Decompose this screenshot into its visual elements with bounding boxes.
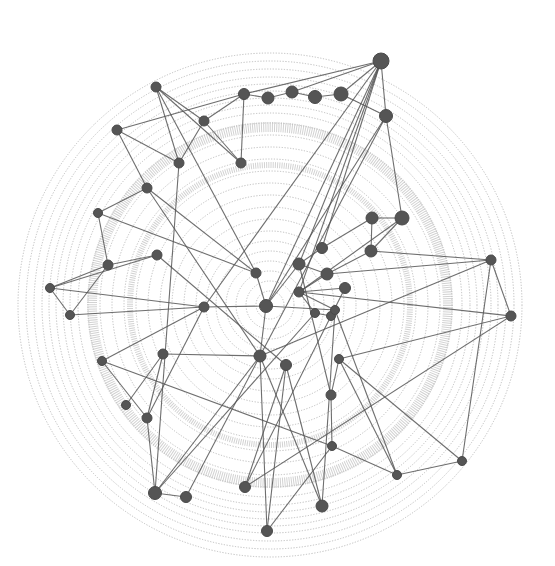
graph-node[interactable]	[286, 86, 298, 98]
graph-node[interactable]	[142, 183, 152, 193]
graph-node[interactable]	[334, 87, 348, 101]
edge	[117, 94, 244, 130]
graph-node[interactable]	[239, 89, 250, 100]
graph-node[interactable]	[373, 53, 389, 69]
graph-node[interactable]	[335, 355, 344, 364]
graph-node[interactable]	[311, 309, 320, 318]
edge	[339, 359, 397, 475]
edge	[204, 306, 266, 307]
graph-node[interactable]	[142, 413, 152, 423]
edge	[108, 255, 157, 265]
edge	[371, 251, 491, 260]
graph-node[interactable]	[331, 306, 340, 315]
graph-node[interactable]	[98, 357, 107, 366]
edge	[102, 307, 204, 361]
edge	[299, 292, 335, 310]
graph-node[interactable]	[380, 110, 393, 123]
graph-node[interactable]	[281, 360, 292, 371]
graph-node[interactable]	[326, 390, 336, 400]
graph-node[interactable]	[260, 300, 273, 313]
graph-node[interactable]	[46, 284, 55, 293]
graph-node[interactable]	[366, 212, 378, 224]
graph-node[interactable]	[395, 211, 409, 225]
edge	[267, 446, 332, 531]
graph-node[interactable]	[158, 349, 168, 359]
graph-node[interactable]	[316, 500, 328, 512]
edge	[155, 356, 260, 493]
graph-node[interactable]	[328, 442, 337, 451]
edge	[331, 395, 332, 446]
edge	[339, 316, 511, 359]
graph-node[interactable]	[151, 82, 161, 92]
edge	[50, 288, 204, 307]
graph-node[interactable]	[122, 401, 131, 410]
edge	[156, 87, 179, 163]
edge	[117, 130, 147, 188]
network-diagram	[0, 0, 555, 566]
graph-node[interactable]	[149, 487, 162, 500]
graph-node[interactable]	[321, 268, 333, 280]
graph-node[interactable]	[340, 283, 351, 294]
graph-node[interactable]	[506, 311, 516, 321]
graph-node[interactable]	[240, 482, 251, 493]
graph-node[interactable]	[112, 125, 122, 135]
edge	[147, 188, 260, 356]
graph-node[interactable]	[293, 258, 305, 270]
graph-node[interactable]	[317, 243, 328, 254]
graph-node[interactable]	[174, 158, 184, 168]
graph-node[interactable]	[486, 255, 496, 265]
graph-node[interactable]	[262, 92, 274, 104]
edge	[267, 365, 286, 531]
graph-node[interactable]	[94, 209, 103, 218]
edge	[204, 94, 244, 121]
edge	[292, 61, 381, 92]
edge	[462, 260, 491, 461]
edge	[50, 288, 70, 315]
graph-node[interactable]	[66, 311, 75, 320]
edge	[397, 461, 462, 475]
graph-node[interactable]	[365, 245, 377, 257]
edge	[163, 354, 260, 356]
edge	[299, 264, 331, 395]
graph-node[interactable]	[199, 116, 209, 126]
graph-node[interactable]	[262, 526, 273, 537]
graph-node[interactable]	[254, 350, 266, 362]
graph-node[interactable]	[181, 492, 192, 503]
graph-node[interactable]	[294, 287, 304, 297]
graph-node[interactable]	[393, 471, 402, 480]
graph-node[interactable]	[236, 158, 246, 168]
edge	[117, 130, 179, 163]
edge	[491, 260, 511, 316]
graph-node[interactable]	[309, 91, 322, 104]
graph-node[interactable]	[103, 260, 113, 270]
graph-node[interactable]	[251, 268, 261, 278]
graph-node[interactable]	[458, 457, 467, 466]
edge	[266, 306, 335, 310]
graph-node[interactable]	[152, 250, 162, 260]
edge	[147, 354, 163, 418]
edge	[147, 418, 155, 493]
graph-node[interactable]	[199, 302, 209, 312]
edge	[98, 213, 256, 273]
edge	[335, 310, 397, 475]
edge	[327, 260, 491, 274]
